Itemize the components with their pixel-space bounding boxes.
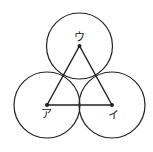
center-triangle xyxy=(47,46,112,105)
three-circles-diagram: ウ ア イ xyxy=(0,0,153,152)
center-dot-i xyxy=(110,103,114,107)
label-a: ア xyxy=(41,108,52,121)
center-dot-u xyxy=(78,44,82,48)
center-dot-a xyxy=(45,103,49,107)
label-u: ウ xyxy=(74,31,85,44)
label-i: イ xyxy=(108,109,119,122)
